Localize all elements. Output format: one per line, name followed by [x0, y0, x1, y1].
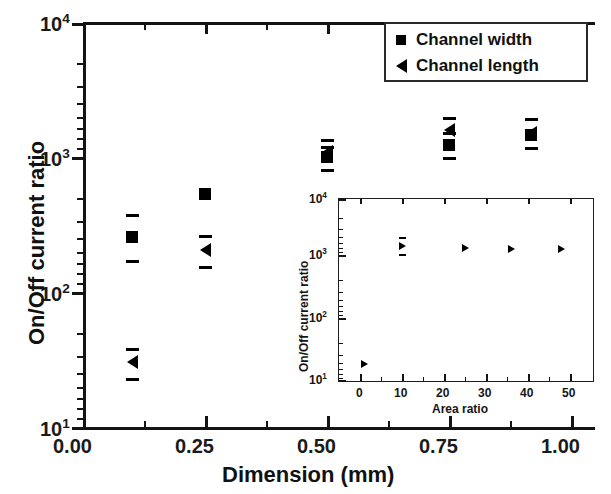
main-y-axis-line	[83, 22, 86, 429]
inset-x-minor-tick	[423, 377, 424, 381]
error-bar-cap	[321, 169, 334, 172]
main-y-minor-tick	[77, 117, 83, 119]
inset-x-tick-40	[528, 374, 530, 381]
error-bar-cap	[443, 117, 456, 120]
legend-triangle-left-icon	[386, 59, 416, 73]
main-y-minor-tick	[77, 238, 83, 240]
main-y-minor-tick	[77, 138, 83, 140]
inset-data-point	[558, 245, 565, 253]
main-x-minor-tick	[388, 421, 390, 427]
main-y-tick-1e3	[72, 157, 83, 160]
data-point-channel-length	[444, 123, 455, 137]
legend-item-channel-width: Channel width	[386, 28, 532, 52]
inset-x-tick-label-30: 30	[478, 387, 491, 399]
inset-y-axis-title: On/Off current ratio	[298, 261, 310, 372]
main-x-tick-label-0: 0.00	[53, 436, 92, 456]
data-point-channel-length	[127, 355, 138, 369]
main-x-tick-label-050: 0.50	[297, 436, 336, 456]
error-bar-cap	[126, 214, 139, 217]
inset-x-tick-30	[486, 374, 488, 381]
inset-top-tick	[360, 199, 362, 204]
error-bar-cap	[126, 260, 139, 263]
inset-x-minor-tick	[507, 377, 508, 381]
inset-data-point	[508, 245, 515, 253]
inset-y-minor-tick	[339, 311, 343, 312]
main-x-minor-tick	[266, 421, 268, 427]
inset-x-minor-tick	[381, 377, 382, 381]
main-x-tick-025	[205, 416, 208, 427]
inset-y-minor-tick	[339, 248, 343, 249]
main-top-tick	[327, 24, 330, 34]
error-bar-cap	[321, 139, 334, 142]
main-y-minor-tick	[77, 373, 83, 375]
main-y-minor-tick	[77, 63, 83, 65]
legend-label: Channel length	[416, 56, 539, 76]
inset-y-minor-tick	[339, 252, 343, 253]
data-point-channel-length	[526, 126, 537, 140]
inset-y-minor-tick	[339, 218, 343, 219]
data-point-channel-width	[443, 139, 455, 151]
legend: Channel width Channel length	[384, 22, 588, 82]
inset-y-minor-tick	[339, 369, 343, 370]
inset-top-tick	[402, 199, 404, 204]
main-y-tick-label-1e4: 104	[40, 12, 70, 34]
main-x-minor-tick	[510, 421, 512, 427]
inset-y-minor-tick	[339, 237, 343, 238]
main-y-minor-tick	[77, 198, 83, 200]
main-top-tick	[205, 24, 208, 34]
main-y-axis-title: On/Off current ratio	[26, 141, 48, 345]
main-x-axis-line	[83, 427, 595, 430]
main-y-minor-tick	[77, 356, 83, 358]
inset-y-tick-1e4	[339, 199, 346, 201]
inset-y-tick-1e2	[339, 318, 346, 320]
inset-y-tick-1e3	[339, 255, 346, 257]
inset-y-minor-tick	[339, 363, 343, 364]
inset-y-minor-tick	[339, 343, 343, 344]
inset-y-tick-label-1e3: 103	[309, 248, 327, 261]
inset-top-tick	[486, 199, 488, 204]
main-y-minor-tick	[77, 408, 83, 410]
main-y-minor-tick	[77, 86, 83, 88]
inset-x-minor-tick	[549, 377, 550, 381]
inset-data-point	[462, 244, 469, 252]
legend-label: Channel width	[416, 30, 532, 50]
inset-y-minor-tick	[339, 315, 343, 316]
inset-x-tick-label-40: 40	[520, 387, 533, 399]
inset-x-axis-title: Area ratio	[432, 403, 488, 415]
error-bar-cap	[199, 266, 212, 269]
error-bar-cap	[443, 157, 456, 160]
main-y-minor-tick	[77, 398, 83, 400]
inset-y-minor-tick	[339, 229, 343, 230]
main-y-minor-tick	[77, 128, 83, 130]
inset-y-minor-tick	[339, 306, 343, 307]
error-bar-cap	[525, 118, 538, 121]
inset-x-minor-tick	[465, 377, 466, 381]
main-y-minor-tick	[77, 387, 83, 389]
inset-x-tick-label-50: 50	[562, 387, 575, 399]
error-bar-cap	[399, 237, 406, 239]
main-x-tick-050	[327, 416, 330, 427]
inset-y-tick-label-1e1: 101	[309, 373, 327, 386]
error-bar-cap	[199, 235, 212, 238]
inset-data-point	[399, 242, 406, 250]
main-y-tick-1e1	[72, 427, 83, 430]
inset-top-tick	[528, 199, 530, 204]
inset-x-tick-50	[570, 374, 572, 381]
inset-y-minor-tick	[339, 374, 343, 375]
main-y-minor-tick	[77, 221, 83, 223]
inset-y-tick-label-1e4: 104	[309, 192, 327, 205]
main-y-tick-1e4	[72, 23, 83, 26]
data-point-channel-width	[199, 188, 211, 200]
main-x-tick-075	[449, 416, 452, 427]
main-y-minor-tick	[77, 333, 83, 335]
main-x-minor-tick	[144, 421, 146, 427]
main-x-tick-0	[83, 416, 86, 427]
main-y-minor-tick	[77, 148, 83, 150]
legend-item-channel-length: Channel length	[386, 54, 539, 78]
inset-data-point	[361, 360, 368, 368]
chart-figure: 104 103 102 101 0.00 0.25 0.50 0.75 1.00…	[0, 0, 611, 494]
main-y-minor-tick	[77, 103, 83, 105]
inset-x-tick-10	[402, 374, 404, 381]
main-y-minor-tick	[77, 273, 83, 275]
inset-x-tick-20	[444, 374, 446, 381]
